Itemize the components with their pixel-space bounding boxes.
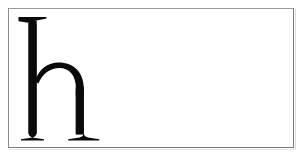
image-alt-text: Lowercase serif letter h printed in blac… xyxy=(0,0,1,1)
paper-shadow-right xyxy=(295,9,296,149)
glyph-character-label: h xyxy=(0,0,1,1)
paper-shadow-bottom xyxy=(9,149,295,150)
typeface-style-label: Didone / Modern serif (high stroke contr… xyxy=(0,0,1,1)
letter-h-glyph xyxy=(18,16,122,142)
specimen-page: h Lowercase serif letter h printed in bl… xyxy=(0,0,304,160)
glyph-area xyxy=(9,9,293,147)
